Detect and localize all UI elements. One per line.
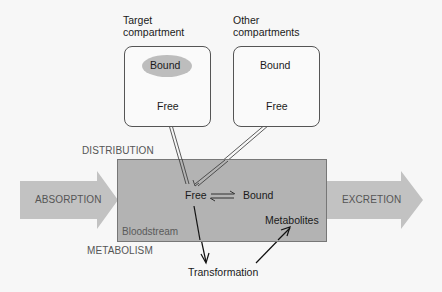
metabolites-label: Metabolites — [265, 214, 319, 226]
absorption-label: ABSORPTION — [35, 194, 102, 205]
transformation-label: Transformation — [188, 266, 258, 278]
bloodstream-overlay-graphics — [0, 0, 442, 292]
blood-bound-label: Bound — [243, 189, 273, 201]
pharmacokinetics-diagram: Target compartment Bound Free Other comp… — [0, 0, 442, 292]
metabolism-label: METABOLISM — [87, 245, 153, 256]
blood-free-label: Free — [185, 189, 207, 201]
excretion-label: EXCRETION — [342, 194, 401, 205]
bloodstream-label: Bloodstream — [122, 226, 178, 237]
